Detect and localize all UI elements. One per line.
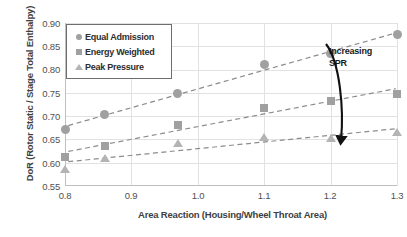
- legend-item-equal-admission: Equal Admission: [72, 29, 166, 44]
- data-point: [61, 125, 70, 134]
- annotation-line-2: SPR: [329, 57, 401, 69]
- legend-item-energy-weighted: Energy Weighted: [72, 44, 166, 59]
- x-tick-label: 0.8: [45, 190, 85, 201]
- data-point: [100, 154, 110, 162]
- gridline-horizontal: [65, 163, 397, 164]
- data-point: [392, 128, 402, 136]
- gridline-horizontal: [65, 116, 397, 117]
- square-marker-icon: [72, 49, 85, 55]
- x-tick-label: 1.1: [244, 190, 284, 201]
- data-point: [61, 153, 69, 161]
- gridline-vertical: [198, 23, 199, 186]
- x-tick-label: 1.2: [310, 190, 350, 201]
- data-point: [260, 104, 268, 112]
- y-tick-label: 0.80: [26, 64, 60, 75]
- y-tick-label: 0.65: [26, 134, 60, 145]
- data-point: [260, 60, 269, 69]
- circle-marker-icon: [72, 34, 85, 40]
- trendline-square: [68, 89, 395, 152]
- legend-item-peak-pressure: Peak Pressure: [72, 59, 166, 74]
- data-point: [327, 97, 335, 105]
- data-point: [60, 165, 70, 173]
- x-tick-label: 0.9: [111, 190, 151, 201]
- x-axis-line: [65, 185, 397, 186]
- x-axis-title: Area Reaction (Housing/Wheel Throat Area…: [65, 209, 400, 220]
- legend-label: Equal Admission: [85, 32, 154, 42]
- data-point: [101, 142, 109, 150]
- y-tick-label: 0.85: [26, 41, 60, 52]
- chart-legend: Equal Admission Energy Weighted Peak Pre…: [66, 24, 172, 79]
- triangle-marker-icon: [72, 64, 85, 70]
- legend-label: Peak Pressure: [85, 62, 144, 72]
- data-point: [173, 89, 182, 98]
- data-point: [393, 30, 402, 39]
- x-tick-label: 1.0: [178, 190, 218, 201]
- y-tick-label: 0.75: [26, 88, 60, 99]
- legend-label: Energy Weighted: [85, 47, 155, 57]
- y-axis-tick-labels: 0.90 0.85 0.80 0.75 0.70 0.65 0.60 0.55: [22, 0, 60, 237]
- data-point: [173, 139, 183, 147]
- x-tick-label: 1.3: [377, 190, 407, 201]
- data-point: [326, 134, 336, 142]
- gridline-horizontal: [65, 93, 397, 94]
- chart-container: DoR (Rotor Static / Stage Total Enthalpy…: [0, 0, 407, 237]
- data-point: [393, 90, 401, 98]
- data-point: [174, 121, 182, 129]
- y-tick-label: 0.90: [26, 18, 60, 29]
- y-tick-label: 0.60: [26, 158, 60, 169]
- annotation-line-1: Increasing: [329, 45, 401, 57]
- y-tick-label: 0.70: [26, 111, 60, 122]
- trendline-triangle: [68, 129, 395, 162]
- data-point: [100, 110, 109, 119]
- data-point: [259, 133, 269, 141]
- annotation-increasing-spr: Increasing SPR: [329, 45, 401, 69]
- gridline-horizontal: [65, 139, 397, 140]
